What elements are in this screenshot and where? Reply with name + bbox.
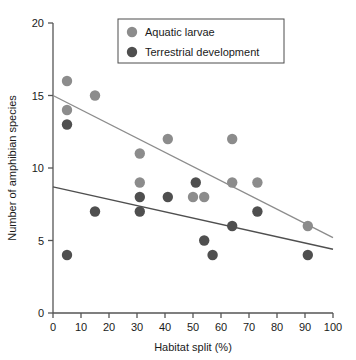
y-tick-label: 20 (32, 17, 44, 29)
data-point (90, 90, 100, 100)
y-tick-label: 0 (38, 307, 44, 319)
data-point (252, 177, 262, 187)
data-point (163, 192, 173, 202)
data-point (62, 105, 72, 115)
data-point (135, 192, 145, 202)
x-axis-title: Habitat split (%) (154, 341, 232, 353)
y-tick-label: 15 (32, 90, 44, 102)
data-point (163, 134, 173, 144)
data-point (188, 192, 198, 202)
data-point (207, 250, 217, 260)
data-point (62, 250, 72, 260)
x-tick-label: 40 (159, 321, 171, 333)
y-tick-label: 10 (32, 162, 44, 174)
scatter-chart: 051015200102030405060708090100Habitat sp… (0, 0, 356, 360)
legend-marker (127, 47, 137, 57)
y-axis-title: Number of amphibian species (6, 95, 18, 241)
data-point (135, 206, 145, 216)
legend-label: Terrestrial development (145, 46, 259, 58)
data-point (199, 235, 209, 245)
data-point (227, 221, 237, 231)
data-point (227, 177, 237, 187)
x-tick-label: 80 (271, 321, 283, 333)
x-tick-label: 30 (131, 321, 143, 333)
x-tick-label: 70 (243, 321, 255, 333)
data-point (191, 177, 201, 187)
x-tick-label: 100 (324, 321, 342, 333)
x-tick-label: 60 (215, 321, 227, 333)
x-tick-label: 20 (103, 321, 115, 333)
x-tick-label: 0 (50, 321, 56, 333)
y-tick-label: 5 (38, 235, 44, 247)
data-point (227, 134, 237, 144)
data-point (303, 250, 313, 260)
legend-marker (127, 27, 137, 37)
data-point (62, 119, 72, 129)
x-tick-label: 90 (299, 321, 311, 333)
data-point (135, 148, 145, 158)
data-point (135, 177, 145, 187)
x-tick-label: 10 (75, 321, 87, 333)
data-point (90, 206, 100, 216)
chart-canvas: 051015200102030405060708090100Habitat sp… (0, 0, 356, 360)
legend-label: Aquatic larvae (145, 26, 215, 38)
data-point (199, 192, 209, 202)
data-point (62, 76, 72, 86)
data-point (252, 206, 262, 216)
data-point (303, 221, 313, 231)
x-tick-label: 50 (187, 321, 199, 333)
